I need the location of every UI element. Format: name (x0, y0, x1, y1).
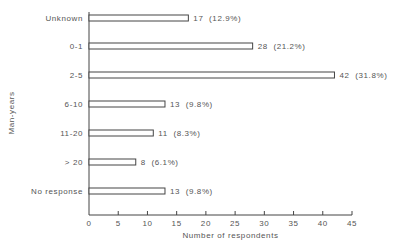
bar-value-label: 28 (21.2%) (258, 42, 306, 51)
category-label: 2-5 (70, 71, 83, 80)
x-tick-label: 0 (86, 219, 91, 228)
x-tick-label: 30 (259, 219, 269, 228)
bar (89, 130, 153, 136)
category-label: 6-10 (65, 100, 83, 109)
x-tick-label: 20 (201, 219, 211, 228)
category-label: 0-1 (70, 42, 83, 51)
category-label: No response (31, 187, 83, 196)
x-axis-title: Number of respondents (182, 231, 278, 240)
x-tick-label: 45 (347, 219, 357, 228)
x-tick-label: 10 (142, 219, 152, 228)
x-tick-label: 40 (318, 219, 328, 228)
bar (89, 15, 188, 21)
y-axis-title: Man-years (7, 91, 16, 134)
category-label: Unknown (45, 14, 83, 23)
category-label: 11-20 (60, 129, 83, 138)
bar-value-label: 8 (6.1%) (141, 158, 179, 167)
bar-value-label: 17 (12.9%) (193, 14, 241, 23)
bar-value-label: 11 (8.3%) (158, 129, 200, 138)
bar (89, 43, 253, 49)
bar (89, 159, 136, 165)
bar (89, 188, 165, 194)
x-tick-label: 35 (289, 219, 299, 228)
bar (89, 101, 165, 107)
bar-chart: 051015202530354045Number of respondentsM… (0, 0, 407, 250)
bar-value-label: 42 (31.8%) (339, 71, 387, 80)
x-tick-label: 5 (116, 219, 121, 228)
bar-value-label: 13 (9.8%) (170, 100, 213, 109)
x-tick-label: 15 (172, 219, 182, 228)
category-label: > 20 (65, 158, 83, 167)
bar (89, 72, 334, 78)
x-tick-label: 25 (230, 219, 240, 228)
bar-value-label: 13 (9.8%) (170, 187, 213, 196)
